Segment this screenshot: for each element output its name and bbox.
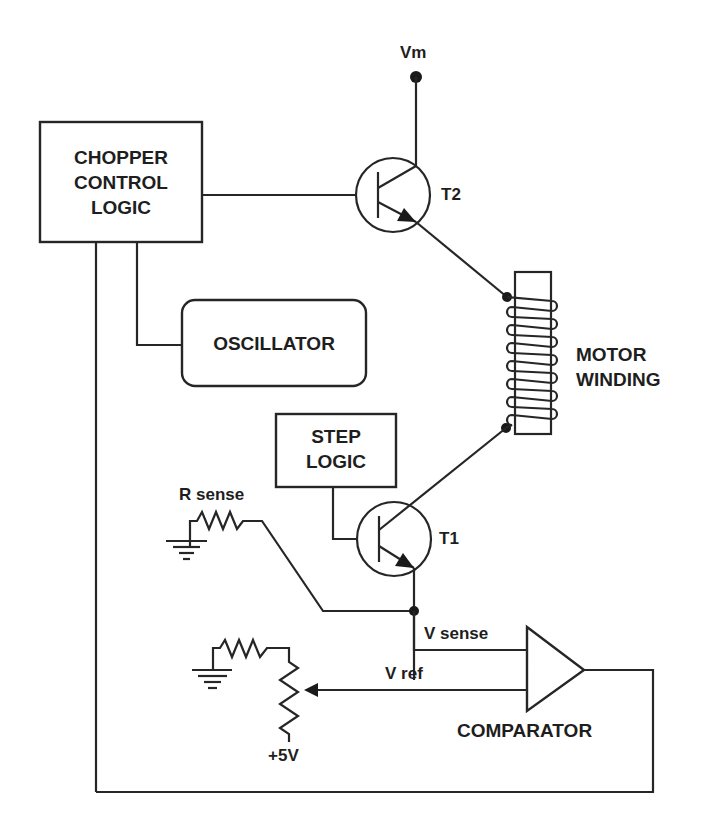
wiper-arrow-icon	[304, 683, 318, 697]
motor-line1: MOTOR	[576, 342, 660, 367]
chopper-line1: CHOPPER	[40, 145, 202, 170]
r-sense-resistor-icon	[190, 512, 414, 611]
ground-icon	[166, 541, 207, 559]
v-sense-label: V sense	[424, 624, 488, 644]
t2-label: T2	[441, 185, 461, 205]
chopper-line3: LOGIC	[40, 195, 202, 220]
chopper-control-logic-label: CHOPPER CONTROL LOGIC	[40, 145, 202, 220]
circuit-schematic	[0, 0, 708, 835]
motor-winding-icon	[501, 272, 557, 434]
step-line2: LOGIC	[276, 449, 396, 474]
wire-step-to-t1	[333, 487, 357, 539]
wire-chopper-to-oscillator	[137, 242, 182, 345]
comparator-icon	[527, 627, 584, 711]
vm-label: Vm	[400, 43, 426, 63]
plus-5v-label: +5V	[268, 746, 299, 766]
step-logic-label: STEP LOGIC	[276, 424, 396, 474]
chopper-line2: CONTROL	[40, 170, 202, 195]
r-sense-label: R sense	[179, 485, 244, 505]
v-ref-label: V ref	[385, 664, 423, 684]
circuit-diagram: Vm CHOPPER CONTROL LOGIC T2 OSCILLATOR M…	[0, 0, 708, 835]
t1-label: T1	[439, 529, 459, 549]
ground-icon	[192, 670, 232, 688]
vm-supply-terminal	[410, 71, 422, 166]
transistor-t2-icon	[356, 158, 507, 297]
step-line1: STEP	[276, 424, 396, 449]
motor-line2: WINDING	[576, 367, 660, 392]
comparator-label: COMPARATOR	[457, 718, 592, 743]
reference-divider-icon	[213, 640, 298, 742]
oscillator-label: OSCILLATOR	[182, 331, 366, 356]
motor-winding-label: MOTOR WINDING	[576, 342, 660, 392]
